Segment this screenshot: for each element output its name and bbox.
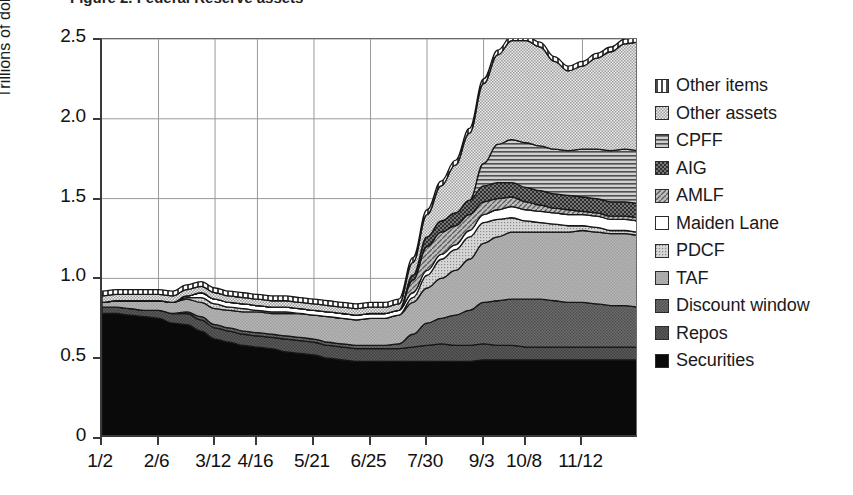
x-tick-mark [157,437,159,445]
legend-label: AIG [676,158,707,179]
x-tick-label: 1/2 [87,450,113,472]
x-tick-label: 5/21 [294,450,330,472]
legend-swatch-icon [655,216,669,230]
figure-container: Figure 2. Federal Reserve assets Trillio… [0,0,853,495]
legend-item[interactable]: Other assets [655,100,850,128]
x-tick-mark [100,437,102,445]
x-tick-label: 2/6 [144,450,170,472]
legend-swatch-icon [655,326,669,340]
legend-item[interactable]: Repos [655,320,850,348]
x-tick-mark [580,437,582,445]
legend-item[interactable]: Securities [655,347,850,375]
legend-label: CPFF [676,130,723,151]
legend-label: Maiden Lane [676,213,779,234]
legend-swatch-icon [655,299,669,313]
legend-item[interactable]: CPFF [655,127,850,155]
legend-label: Repos [676,323,728,344]
legend-label: PDCF [676,240,725,261]
legend-item[interactable]: PDCF [655,237,850,265]
x-tick-label: 7/30 [407,450,443,472]
legend-swatch-icon [655,106,669,120]
legend-item[interactable]: Maiden Lane [655,210,850,238]
legend-label: Other items [676,75,768,96]
x-tick-mark [482,437,484,445]
legend-label: Discount window [676,295,810,316]
legend-label: Securities [676,350,754,371]
x-tick-label: 3/12 [195,450,231,472]
legend-item[interactable]: AMLF [655,182,850,210]
legend-label: TAF [676,268,708,289]
legend-item[interactable]: Other items [655,72,850,100]
x-tick-label: 11/12 [558,450,603,472]
legend-swatch-icon [655,134,669,148]
legend-item[interactable]: Discount window [655,292,850,320]
legend-swatch-icon [655,354,669,368]
legend-swatch-icon [655,244,669,258]
legend-label: Other assets [676,103,777,124]
x-tick-label: 4/16 [238,450,274,472]
legend-swatch-icon [655,161,669,175]
legend-swatch-icon [655,189,669,203]
legend-swatch-icon [655,79,669,93]
legend-swatch-icon [655,271,669,285]
legend-label: AMLF [676,185,724,206]
x-tick-label: 9/3 [469,450,495,472]
x-tick-mark [524,437,526,445]
x-tick-label: 6/25 [351,450,387,472]
x-tick-mark [425,437,427,445]
legend-item[interactable]: AIG [655,155,850,183]
x-tick-label: 10/8 [506,450,542,472]
x-tick-mark [369,437,371,445]
x-tick-mark [255,437,257,445]
x-tick-mark [312,437,314,445]
legend: Other itemsOther assetsCPFFAIGAMLFMaiden… [655,72,850,375]
legend-item[interactable]: TAF [655,265,850,293]
x-tick-mark [213,437,215,445]
